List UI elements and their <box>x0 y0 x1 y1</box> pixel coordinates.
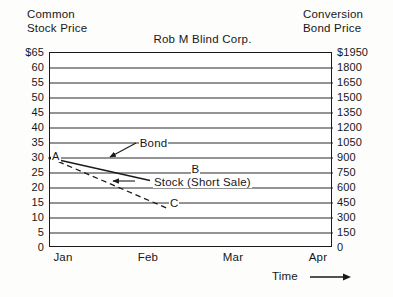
x-axis-tick-label: Apr <box>309 251 328 263</box>
left-axis-tick-label: 10 <box>32 212 44 223</box>
left-axis-tick-label: 0 <box>38 242 44 253</box>
plot-area <box>49 52 332 247</box>
right-axis-tick-label: 1500 <box>337 92 362 103</box>
right-axis-tick-label: 300 <box>337 212 356 223</box>
left-axis-tick-label: 40 <box>32 122 44 133</box>
annotation-point-c: C <box>169 197 180 209</box>
left-axis-tick-label: 15 <box>32 197 44 208</box>
right-axis-title: Conversion Bond Price <box>303 8 363 35</box>
left-axis-tick-label: 50 <box>32 92 44 103</box>
bond-leader-line <box>110 143 136 157</box>
right-axis-tick-label: 750 <box>337 167 356 178</box>
left-axis-tick-label: 25 <box>32 167 44 178</box>
right-axis-tick-label: $1950 <box>337 47 368 58</box>
x-axis-tick-label: Feb <box>138 251 158 263</box>
annotation-point-a: A <box>51 150 61 162</box>
right-axis-tick-label: 1200 <box>337 122 362 133</box>
right-axis-tick-label: 900 <box>337 152 356 163</box>
left-axis-tick-label: 45 <box>32 107 44 118</box>
annotation-stock-short-sale: Stock (Short Sale) <box>153 176 252 188</box>
chart-screenshot: Common Stock Price Conversion Bond Price… <box>0 0 393 297</box>
left-axis-title-line1: Common <box>27 8 87 22</box>
left-axis-tick-label: 35 <box>32 137 44 148</box>
x-axis-tick-label: Mar <box>223 251 243 263</box>
right-axis-tick-label: 1650 <box>337 77 362 88</box>
annotation-point-b: B <box>191 163 201 175</box>
right-axis-tick-label: 450 <box>337 197 356 208</box>
right-axis-tick-label: 150 <box>337 227 356 238</box>
left-axis-tick-label: 55 <box>32 77 44 88</box>
left-axis-tick-label: 30 <box>32 152 44 163</box>
time-arrow-icon <box>310 271 352 283</box>
right-axis-title-line1: Conversion <box>303 8 363 22</box>
left-axis-tick-label: 20 <box>32 182 44 193</box>
right-axis-tick-label: 600 <box>337 182 356 193</box>
right-axis-tick-label: 0 <box>337 242 343 253</box>
left-axis-tick-label: $65 <box>25 47 44 58</box>
left-axis-tick-label: 5 <box>38 227 44 238</box>
right-axis-tick-label: 1800 <box>337 62 362 73</box>
right-axis-tick-label: 1350 <box>337 107 362 118</box>
left-axis-tick-label: 60 <box>32 62 44 73</box>
annotation-bond: Bond <box>139 137 169 149</box>
chart-title: Rob M Blind Corp. <box>0 33 393 45</box>
left-axis-title: Common Stock Price <box>27 8 87 35</box>
x-axis-title: Time <box>272 270 298 282</box>
right-axis-tick-label: 1050 <box>337 137 362 148</box>
x-axis-tick-label: Jan <box>53 251 72 263</box>
annotation-leader-lines <box>50 53 333 248</box>
